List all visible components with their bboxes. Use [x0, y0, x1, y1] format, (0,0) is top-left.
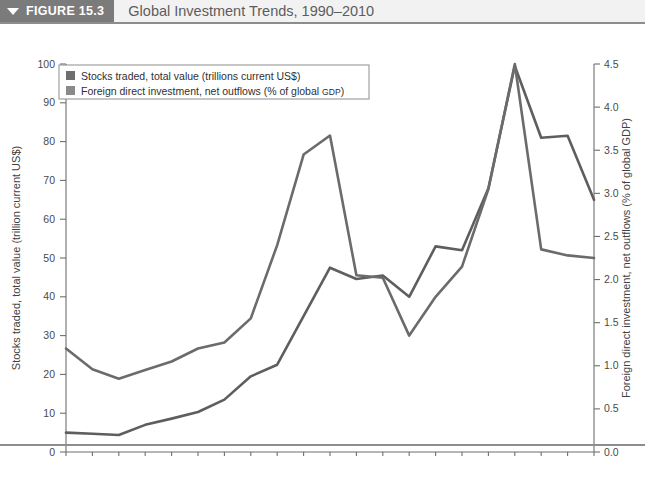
right-tick-label: 4.0: [604, 101, 619, 113]
right-tick-label: 3.0: [604, 187, 619, 199]
legend-label-fdi: Foreign direct investment, net outflows …: [81, 85, 344, 97]
right-tick-label: 1.0: [604, 359, 619, 371]
left-axis-ticks: 0102030405060708090100: [37, 58, 66, 456]
figure-title: Global Investment Trends, 1990–2010: [114, 0, 645, 22]
y2-axis-title: Foreign direct investment, net outflows …: [620, 118, 632, 398]
left-tick-label: 70: [43, 174, 55, 186]
figure-tag-label: FIGURE 15.3: [26, 4, 104, 18]
left-tick-label: 40: [43, 290, 55, 302]
left-tick-label: 100: [37, 58, 55, 70]
left-tick-label: 20: [43, 368, 55, 380]
left-tick-label: 0: [49, 446, 55, 456]
series-line-fdi: [66, 64, 594, 379]
right-axis-ticks: 0.00.51.01.52.02.53.03.54.04.5: [594, 58, 619, 456]
left-tick-label: 90: [43, 96, 55, 108]
right-tick-label: 0.0: [604, 446, 619, 456]
line-chart: 0102030405060708090100 0.00.51.01.52.02.…: [0, 24, 645, 456]
left-tick-label: 50: [43, 252, 55, 264]
triangle-down-icon[interactable]: [7, 8, 19, 15]
figure-tag[interactable]: FIGURE 15.3: [0, 0, 114, 22]
right-tick-label: 0.5: [604, 402, 619, 414]
chart-series-group: [66, 64, 594, 435]
legend-swatch-stocks: [66, 71, 75, 80]
chart-axes: [66, 64, 594, 452]
left-tick-label: 10: [43, 407, 55, 419]
figure-header: FIGURE 15.3 Global Investment Trends, 19…: [0, 0, 645, 22]
right-tick-label: 3.5: [604, 144, 619, 156]
x-axis-ticks: 1990199119921993199419951996199719981999…: [56, 452, 605, 456]
left-tick-label: 30: [43, 329, 55, 341]
left-tick-label: 80: [43, 135, 55, 147]
y-axis-title: Stocks traded, total value (trillion cur…: [10, 146, 22, 370]
chart-legend: Stocks traded, total value (trillions cu…: [59, 65, 369, 99]
right-tick-label: 1.5: [604, 316, 619, 328]
right-tick-label: 2.0: [604, 273, 619, 285]
left-tick-label: 60: [43, 213, 55, 225]
right-tick-label: 4.5: [604, 58, 619, 70]
chart-container: 0102030405060708090100 0.00.51.01.52.02.…: [0, 24, 645, 456]
series-line-stocks: [66, 66, 594, 435]
legend-swatch-fdi: [66, 86, 75, 95]
right-tick-label: 2.5: [604, 230, 619, 242]
legend-label-stocks: Stocks traded, total value (trillions cu…: [81, 70, 300, 82]
footer-divider: [0, 444, 645, 446]
